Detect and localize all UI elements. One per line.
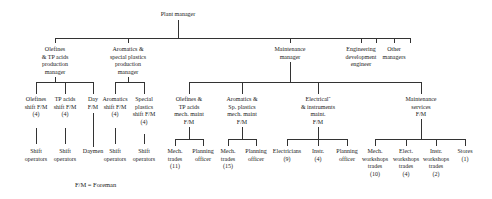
connector [128, 38, 129, 43]
connector [175, 139, 203, 140]
node-electrical-instruments-foreman: Electrical˜ & instruments maint. F/M [301, 96, 335, 126]
connector [290, 38, 291, 43]
connector [406, 139, 407, 146]
connector [410, 38, 411, 43]
connector [65, 82, 66, 94]
node-shift-operators: Shift operators [104, 148, 126, 163]
connector [287, 139, 288, 146]
connector [228, 139, 256, 140]
node-elect-workshops-trades: Elect. workshops trades (4) [393, 148, 419, 178]
connector [318, 127, 319, 146]
connector [115, 82, 144, 83]
connector [228, 139, 229, 146]
node-olefines-mech-maint-foreman: Olefines & TP acids mech. maint F/M [174, 96, 204, 126]
connector [144, 82, 145, 94]
connector [55, 38, 410, 39]
node-day-foreman: Day F/M [88, 96, 98, 111]
connector [189, 82, 190, 94]
connector [115, 128, 116, 144]
connector [93, 113, 94, 147]
node-daymen: Daymen [83, 148, 103, 156]
node-shift-operators: Shift operators [133, 148, 155, 163]
node-mech-trades: Mech. trades (11) [167, 148, 182, 171]
node-other-managers: Other managers [383, 46, 406, 61]
connector [290, 62, 291, 82]
node-planning-officer: Planning officer [192, 148, 213, 163]
connector [144, 134, 145, 144]
node-planning-officer: Planning officer [336, 148, 357, 163]
connector [376, 38, 377, 43]
node-mech-trades: Mech. trades (15) [220, 148, 235, 171]
node-olefines-production-manager: Olefines & TP acids production manager [42, 46, 69, 76]
connector [375, 139, 376, 146]
node-special-plastics-shift-foreman: Special plastics shift F/M (4) [133, 96, 156, 126]
connector [189, 127, 190, 139]
node-planning-officer: Planning officer [245, 148, 266, 163]
connector [36, 82, 37, 94]
node-olefines-shift-foreman: Olefines shift F/M (4) [25, 96, 48, 119]
connector [436, 139, 437, 146]
connector [189, 82, 421, 83]
node-shift-operators: Shift operators [54, 148, 76, 163]
connector [203, 139, 204, 146]
connector [256, 139, 257, 146]
connector [421, 82, 422, 94]
connector [36, 128, 37, 144]
node-stores: Stores (1) [458, 148, 473, 163]
node-shift-operators: Shift operators [25, 148, 47, 163]
connector [375, 139, 465, 140]
connector [175, 139, 176, 146]
connector [394, 38, 395, 43]
connector [93, 82, 94, 94]
legend: F/M = Foreman [75, 181, 116, 188]
connector [465, 139, 466, 146]
node-mech-workshops-trades: Mech. workshops trades (10) [362, 148, 388, 178]
connector [178, 20, 179, 38]
node-electricians: Electricians (9) [273, 148, 301, 163]
node-instr-workshops-trades: Instr. workshops trades (2) [423, 148, 449, 178]
node-aromatics-shift-foreman: Aromatics shift F/M (4) [103, 96, 128, 119]
connector [65, 128, 66, 144]
connector [421, 119, 422, 139]
node-engineering-development-engineer: Engineering development engineer [346, 46, 377, 69]
connector [347, 139, 348, 146]
node-maintenance-manager: Maintenance manager [275, 46, 306, 61]
connector [242, 127, 243, 139]
node-aromatics-mech-maint-foreman: Aromatics & Sp. plastics mech. maint F/M [226, 96, 257, 126]
node-instrument-techs: Instr. (4) [312, 148, 324, 163]
connector [318, 82, 319, 94]
node-aromatics-production-manager: Aromatics & special plastics production … [110, 46, 146, 76]
connector [287, 139, 347, 140]
node-plant-manager: Plant manager [161, 11, 196, 19]
node-tp-acids-shift-foreman: TP acids shift F/M (4) [54, 96, 77, 119]
connector [361, 38, 362, 43]
connector [242, 82, 243, 94]
connector [115, 82, 116, 94]
node-maintenance-services-foreman: Maintenance services F/M [406, 96, 437, 119]
connector [55, 38, 56, 43]
